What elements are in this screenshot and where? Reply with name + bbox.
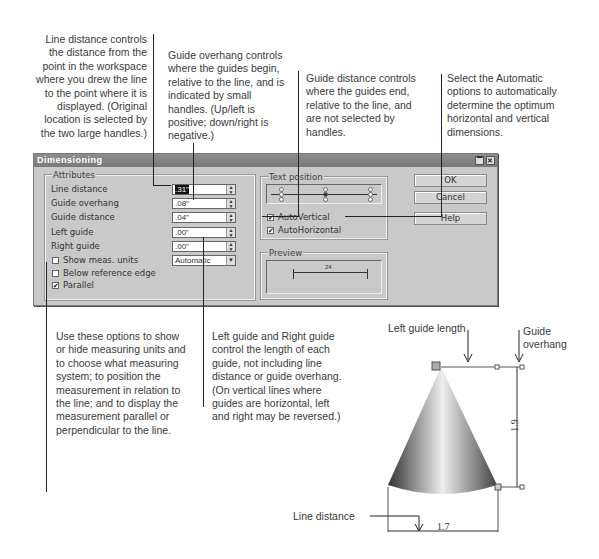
attributes-label: Attributes bbox=[52, 170, 96, 180]
guide-distance-field[interactable]: .04"▲▼ bbox=[172, 212, 236, 223]
show-units-label: Show meas. units bbox=[63, 255, 138, 265]
radio-bottom-left[interactable] bbox=[279, 197, 284, 202]
spinner-icon[interactable]: ▲▼ bbox=[226, 213, 235, 222]
preview-label: Preview bbox=[268, 248, 303, 258]
right-guide-label: Right guide bbox=[51, 241, 100, 251]
minimize-icon[interactable]: ▔ bbox=[475, 156, 484, 165]
line-distance-label: Line distance bbox=[51, 184, 107, 194]
leader-line bbox=[262, 216, 299, 217]
chevron-down-icon[interactable]: ▼ bbox=[226, 256, 235, 265]
ok-button[interactable]: OK bbox=[414, 174, 487, 187]
leader-line bbox=[153, 34, 154, 186]
callout-automatic: Select the Automatic options to automati… bbox=[447, 72, 567, 139]
spinner-icon[interactable]: ▲▼ bbox=[226, 228, 235, 237]
guide-overhang-field[interactable]: .08"▲▼ bbox=[172, 198, 236, 209]
height-value: 1.9 bbox=[509, 419, 520, 432]
radio-bottom-right[interactable] bbox=[368, 197, 373, 202]
text-position-selector bbox=[266, 184, 382, 204]
guide-overhang-label: Guide overhang bbox=[523, 325, 573, 352]
units-select[interactable]: Automatic▼ bbox=[172, 255, 236, 266]
preview-value: 24 bbox=[325, 264, 332, 270]
spinner-icon[interactable]: ▲▼ bbox=[226, 199, 235, 208]
leader-line bbox=[193, 143, 194, 200]
callout-show-units: Use these options to show or hide measur… bbox=[56, 330, 186, 437]
spinner-icon[interactable]: ▲▼ bbox=[226, 242, 235, 251]
leader-line bbox=[441, 74, 442, 217]
line-distance-figure-label: Line distance bbox=[293, 510, 355, 523]
dialog-titlebar: Dimensioning ▔ ✕ bbox=[34, 154, 497, 167]
leader-line bbox=[46, 262, 47, 492]
parallel-label: Parallel bbox=[63, 280, 94, 290]
below-reference-label: Below reference edge bbox=[63, 268, 156, 278]
line-distance-field[interactable]: .31"▲▼ bbox=[172, 184, 236, 195]
callout-guide-overhang: Guide overhang controls where the guides… bbox=[168, 49, 290, 143]
auto-horizontal-checkbox[interactable]: ✔ bbox=[267, 227, 274, 234]
auto-vertical-label: AutoVertical bbox=[278, 212, 330, 222]
help-button[interactable]: Help bbox=[414, 212, 487, 225]
callout-guide-distance: Guide distance controls where the guides… bbox=[306, 72, 426, 139]
left-guide-length-label: Left guide length bbox=[388, 322, 466, 335]
cancel-button[interactable]: Cancel bbox=[414, 191, 487, 204]
show-units-checkbox[interactable] bbox=[52, 257, 59, 264]
leader-line bbox=[203, 237, 204, 407]
dimensioning-dialog: Dimensioning ▔ ✕ Attributes Line distanc… bbox=[33, 153, 498, 306]
callout-left-right-guide: Left guide and Right guide control the l… bbox=[212, 330, 342, 424]
leader-line bbox=[153, 185, 171, 186]
left-guide-field[interactable]: .00"▲▼ bbox=[172, 227, 236, 238]
parallel-checkbox[interactable]: ✔ bbox=[52, 282, 59, 289]
below-reference-checkbox[interactable] bbox=[52, 270, 59, 277]
auto-horizontal-label: AutoHorizontal bbox=[278, 225, 341, 235]
leader-line bbox=[345, 216, 442, 217]
callout-line-distance: Line distance controls the distance from… bbox=[34, 33, 147, 140]
text-position-label: Text position bbox=[268, 172, 324, 182]
guide-overhang-label: Guide overhang bbox=[51, 198, 119, 208]
right-guide-field[interactable]: .00"▲▼ bbox=[172, 241, 236, 252]
preview-area: 24 bbox=[266, 260, 382, 294]
close-icon[interactable]: ✕ bbox=[486, 156, 495, 165]
width-value: 1.7 bbox=[437, 521, 450, 532]
dialog-title: Dimensioning bbox=[37, 155, 103, 165]
spinner-icon[interactable]: ▲▼ bbox=[226, 185, 235, 194]
guide-distance-label: Guide distance bbox=[51, 212, 115, 222]
leader-line bbox=[298, 71, 299, 216]
radio-bottom-center[interactable] bbox=[323, 197, 328, 202]
left-guide-label: Left guide bbox=[51, 227, 93, 237]
